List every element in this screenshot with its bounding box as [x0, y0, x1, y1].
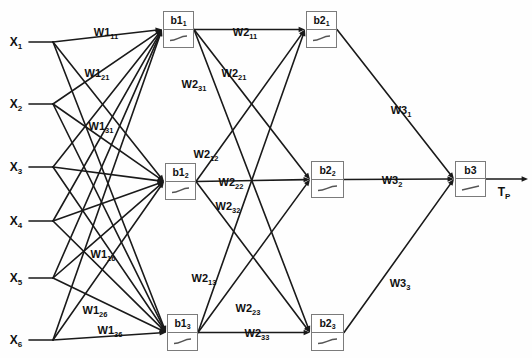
weight-label-w2_23: W223	[236, 302, 261, 314]
neural-network-diagram: X1 X2 X3 X4 X5 X6 W111W121W131W116W126W1…	[0, 0, 532, 358]
linear-activation-icon	[458, 182, 483, 194]
activation-cell-b1_1	[164, 30, 193, 48]
sigmoid-activation-icon	[314, 335, 341, 348]
weight-label-w3_1: W31	[391, 104, 412, 116]
neuron-name-text: b12	[172, 167, 188, 178]
neuron-box-b2_1[interactable]: b21	[306, 11, 337, 48]
weight-label-w2_13: W213	[192, 272, 217, 284]
activation-cell-b1_2	[166, 182, 195, 200]
activation-cell-b2_2	[312, 180, 343, 198]
weight-label-w1_31: W131	[89, 120, 114, 132]
neuron-name-text: b11	[170, 15, 186, 26]
weight-label-w2_22: W222	[219, 176, 244, 188]
weight-label-w1_26: W126	[83, 304, 108, 316]
neuron-label-b1_3: b13	[168, 315, 197, 333]
edge-x1-to-b1_2	[53, 42, 161, 178]
neuron-label-b2_3: b23	[312, 315, 343, 333]
sigmoid-activation-icon	[170, 335, 195, 348]
neuron-name-text: b23	[319, 318, 335, 329]
neuron-name-text: b21	[313, 15, 329, 26]
weight-label-w1_16: W116	[91, 248, 116, 260]
sigmoid-activation-icon	[314, 182, 341, 195]
weight-label-w2_11: W211	[233, 26, 257, 38]
weight-label-w1_36: W136	[98, 324, 123, 336]
activation-cell-b3	[456, 179, 485, 196]
sigmoid-activation-icon	[309, 32, 334, 45]
neuron-name-text: b3	[464, 165, 476, 176]
edge-x3-to-b1_1	[53, 33, 159, 167]
weight-label-w3_2: W32	[382, 174, 403, 186]
weight-label-w2_12: W212	[194, 148, 219, 160]
edge-b2_1-to-b3	[337, 30, 451, 176]
activation-cell-b2_1	[307, 30, 336, 48]
input-label-x2: X2	[10, 97, 22, 111]
activation-cell-b1_3	[168, 333, 197, 351]
weight-label-w1_11: W111	[94, 26, 118, 38]
input-label-x6: X6	[10, 333, 22, 347]
edge-b2_3-to-b3	[344, 183, 451, 333]
weight-label-w2_32: W232	[216, 200, 241, 212]
neuron-label-b1_2: b12	[166, 164, 195, 182]
output-label-tp: TP	[498, 185, 511, 199]
edge-x2-to-b1_2	[53, 104, 160, 179]
sigmoid-activation-icon	[168, 184, 193, 197]
input-label-x5: X5	[10, 271, 22, 285]
weight-label-w1_21: W121	[85, 67, 110, 79]
neuron-box-b2_2[interactable]: b22	[311, 161, 344, 198]
input-label-x4: X4	[10, 214, 22, 228]
input-label-x1: X1	[10, 35, 22, 49]
neuron-label-b2_2: b22	[312, 162, 343, 180]
output-arrow-arrow	[522, 176, 528, 181]
neuron-box-b2_3[interactable]: b23	[311, 314, 344, 351]
edge-b1_3-to-b2_1	[198, 34, 304, 333]
weight-label-w2_21: W221	[222, 67, 247, 79]
weight-label-w2_33: W233	[245, 327, 270, 339]
neuron-label-b2_1: b21	[307, 12, 336, 30]
sigmoid-activation-icon	[166, 32, 191, 45]
weight-label-w3_3: W33	[390, 277, 411, 289]
neuron-label-b1_1: b11	[164, 12, 193, 30]
neuron-box-b1_2[interactable]: b12	[165, 163, 196, 200]
network-connections-svg	[0, 0, 532, 358]
neuron-box-b1_3[interactable]: b13	[167, 314, 198, 351]
edge-x4-to-b1_3	[53, 221, 163, 329]
neuron-box-b3[interactable]: b3	[455, 161, 486, 197]
neuron-label-b3: b3	[456, 162, 485, 179]
neuron-name-text: b13	[174, 318, 190, 329]
neuron-box-b1_1[interactable]: b11	[163, 11, 194, 48]
activation-cell-b2_3	[312, 333, 343, 351]
neuron-name-text: b22	[319, 165, 335, 176]
edge-x5-to-b1_3	[53, 278, 162, 331]
weight-label-w2_31: W231	[182, 78, 207, 90]
input-label-x3: X3	[10, 160, 22, 174]
